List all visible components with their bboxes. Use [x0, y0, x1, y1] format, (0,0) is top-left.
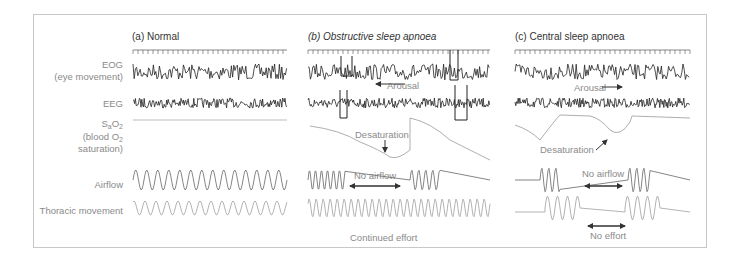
time-axis-ticks	[133, 50, 690, 54]
signal-traces	[0, 0, 735, 274]
waveforms	[133, 50, 690, 219]
